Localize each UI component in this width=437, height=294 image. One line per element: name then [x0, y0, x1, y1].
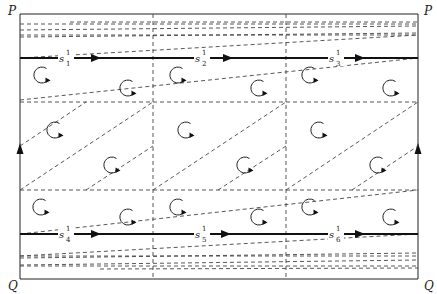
right-edge-arrow-icon	[415, 143, 422, 154]
diagram-canvas: s 1 1 s 1 2 s 1 3 s 1 4 s 1 5 s 1 6 P P …	[0, 0, 437, 294]
diagonal-dashed-lines	[20, 35, 418, 256]
rotation-icon	[370, 157, 387, 173]
svg-text:1: 1	[66, 49, 70, 57]
rotation-icon	[237, 157, 254, 173]
svg-text:2: 2	[202, 60, 206, 68]
rotation-icon	[33, 199, 50, 215]
svg-text:s: s	[59, 53, 64, 64]
corner-label-top-left: P	[7, 4, 17, 18]
corner-label-top-right: P	[423, 4, 433, 18]
svg-text:s: s	[329, 53, 334, 64]
svg-text:1: 1	[66, 60, 70, 68]
corner-label-bottom-left: Q	[8, 279, 18, 293]
svg-text:s: s	[59, 229, 64, 240]
svg-text:s: s	[329, 229, 334, 240]
svg-text:1: 1	[336, 49, 340, 57]
svg-text:3: 3	[336, 60, 340, 68]
svg-text:1: 1	[66, 225, 70, 233]
svg-text:s: s	[195, 229, 200, 240]
svg-text:4: 4	[66, 236, 71, 244]
svg-text:1: 1	[202, 225, 206, 233]
horizontal-dashed-lines	[20, 22, 418, 269]
svg-text:6: 6	[336, 236, 341, 244]
rotation-icon	[178, 122, 195, 138]
rotation-icon	[251, 80, 268, 96]
svg-text:5: 5	[202, 236, 206, 244]
rotation-icon	[302, 67, 319, 83]
svg-text:s: s	[195, 53, 200, 64]
rotation-icon	[170, 67, 187, 83]
svg-text:1: 1	[336, 225, 340, 233]
rotation-icon	[47, 122, 64, 138]
rotation-icon	[34, 67, 51, 83]
rotation-markers	[33, 67, 400, 225]
rotation-icon	[120, 209, 137, 225]
corner-label-bottom-right: Q	[424, 279, 434, 293]
rotation-icon	[104, 157, 121, 173]
rotation-icon	[311, 122, 328, 138]
rotation-icon	[383, 209, 400, 225]
rotation-icon	[251, 209, 268, 225]
svg-text:1: 1	[202, 49, 206, 57]
rotation-icon	[170, 199, 187, 215]
rotation-icon	[383, 80, 400, 96]
